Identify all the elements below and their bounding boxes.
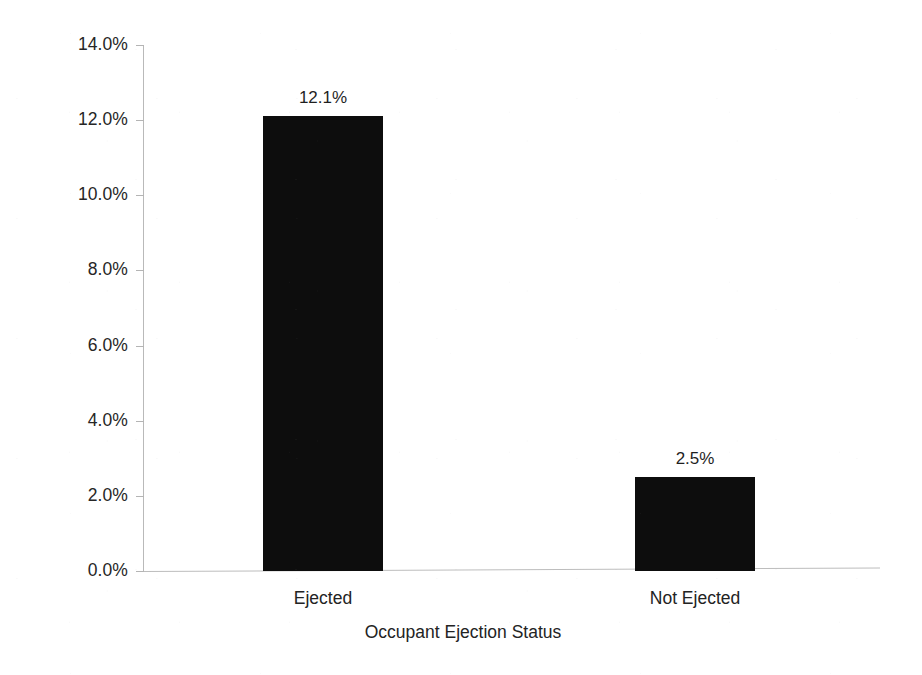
y-axis-tick-label: 2.0% xyxy=(0,485,128,506)
y-axis-tick-label: 12.0% xyxy=(0,109,128,130)
y-axis-tick-label: 0.0% xyxy=(0,560,128,581)
y-axis-tick-label: 8.0% xyxy=(0,259,128,280)
y-axis-tick-label: 4.0% xyxy=(0,410,128,431)
x-axis-line xyxy=(143,567,880,572)
y-axis-tick-label: 10.0% xyxy=(0,184,128,205)
y-axis-tick xyxy=(136,346,144,347)
x-axis-tick-label: Ejected xyxy=(233,588,413,609)
x-axis-tick-label: Not Ejected xyxy=(605,588,785,609)
y-axis-tick xyxy=(136,195,144,196)
bar-chart-figure: Percent of Occupants Who Died 0.0%2.0%4.… xyxy=(0,0,922,675)
y-axis-tick xyxy=(136,270,144,271)
y-axis-tick xyxy=(136,496,144,497)
bar-value-label: 2.5% xyxy=(625,449,765,469)
y-axis-tick xyxy=(136,120,144,121)
y-axis-tick-label: 6.0% xyxy=(0,335,128,356)
x-axis-title-text: Occupant Ejection Status xyxy=(365,622,562,642)
y-axis-line xyxy=(143,45,144,572)
y-axis-tick xyxy=(136,45,144,46)
y-axis-tick xyxy=(136,421,144,422)
y-axis-tick xyxy=(136,571,144,572)
bar xyxy=(635,477,755,571)
bar-value-label: 12.1% xyxy=(253,88,393,108)
x-axis-title: Occupant Ejection Status xyxy=(0,622,922,643)
y-axis-tick-label: 14.0% xyxy=(0,34,128,55)
bar xyxy=(263,116,383,571)
scan-noise-overlay xyxy=(0,0,922,675)
